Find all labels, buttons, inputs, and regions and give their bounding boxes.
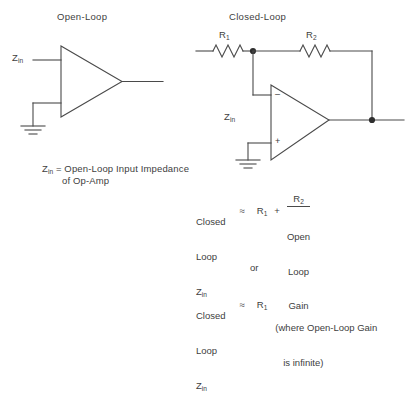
r1-subscript: 1 xyxy=(226,34,230,41)
resistor-r1-label: R1 xyxy=(219,29,230,42)
eq2-lhs-line-1: Closed xyxy=(196,310,226,322)
open-loop-zin-subscript: in xyxy=(18,57,23,64)
resistor-r2-label: R2 xyxy=(306,29,317,42)
eq1-numerator: R2 xyxy=(287,193,310,206)
equation-closed-loop-zin-simplified: Closed Loop Zin ≈ R1 (where Open-Loop Ga… xyxy=(196,287,377,395)
eq2-note: (where Open-Loop Gain is infinite) xyxy=(275,287,377,391)
eq1-lhs-line-1: Closed xyxy=(196,216,226,228)
eq2-r1-subscript: 1 xyxy=(264,304,268,311)
eq2-approx-sign: ≈ xyxy=(240,287,245,310)
closed-loop-title: Closed-Loop xyxy=(229,11,286,23)
closed-loop-zin-subscript: in xyxy=(230,116,235,123)
noninverting-input-sign: + xyxy=(275,136,280,146)
caption-zin-subscript: in xyxy=(48,168,53,175)
eq2-lhs-zin-base: Z xyxy=(196,380,202,391)
eq1-r1-base: R xyxy=(257,205,264,216)
eq2-lhs-line-3: Zin xyxy=(196,380,226,393)
eq2-term-r1: R1 xyxy=(257,287,268,311)
r2-base: R xyxy=(306,29,313,40)
r2-subscript: 2 xyxy=(313,34,317,41)
inverting-input-sign: – xyxy=(275,89,280,99)
equation-connector-or: or xyxy=(250,262,258,273)
output-node-dot xyxy=(369,117,375,123)
resistor-r1-zigzag xyxy=(213,45,243,57)
eq2-note-line-1: (where Open-Loop Gain xyxy=(275,322,377,334)
eq1-lhs-line-2: Loop xyxy=(196,251,226,263)
eq1-numerator-subscript: 2 xyxy=(300,198,304,205)
open-loop-title: Open-Loop xyxy=(57,11,107,23)
caption-line-1: = Open-Loop Input Impedance xyxy=(53,163,189,174)
resistor-r2-zigzag xyxy=(300,45,330,57)
closed-loop-zin-label: Zin xyxy=(224,111,235,124)
open-loop-opamp-triangle xyxy=(61,46,122,117)
eq2-lhs-line-2: Loop xyxy=(196,345,226,357)
eq2-lhs-zin-subscript: in xyxy=(202,385,207,392)
eq1-r1-subscript: 1 xyxy=(264,210,268,217)
open-loop-caption: Zin = Open-Loop Input Impedance xyxy=(42,163,189,176)
r1-base: R xyxy=(219,29,226,40)
eq1-denominator-line-1: Open xyxy=(287,231,310,243)
eq2-left-side: Closed Loop Zin xyxy=(196,287,226,395)
eq1-term-r1: R1 xyxy=(257,193,268,217)
eq2-note-line-2: is infinite) xyxy=(275,357,377,369)
eq1-approx-sign: ≈ xyxy=(240,193,245,216)
eq1-operator: + xyxy=(274,193,280,216)
caption-line-2: of Op-Amp xyxy=(62,175,109,187)
eq2-r1-base: R xyxy=(257,299,264,310)
eq1-denominator-line-2: Loop xyxy=(287,266,310,278)
open-loop-zin-label: Zin xyxy=(12,52,23,65)
